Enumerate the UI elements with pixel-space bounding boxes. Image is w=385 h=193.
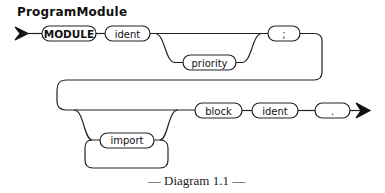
diagram-caption: — Diagram 1.1 —: [0, 173, 385, 189]
import-label: import: [110, 135, 143, 146]
priority-label: priority: [191, 58, 227, 69]
semicolon-label: ;: [282, 29, 285, 40]
ident-label: ident: [115, 29, 141, 40]
block-label: block: [205, 106, 232, 117]
syntax-diagram: MODULE ident priority ; import block ide…: [0, 0, 385, 193]
ident2-label: ident: [262, 106, 288, 117]
module-label: MODULE: [44, 28, 94, 40]
period-label: .: [331, 106, 334, 117]
